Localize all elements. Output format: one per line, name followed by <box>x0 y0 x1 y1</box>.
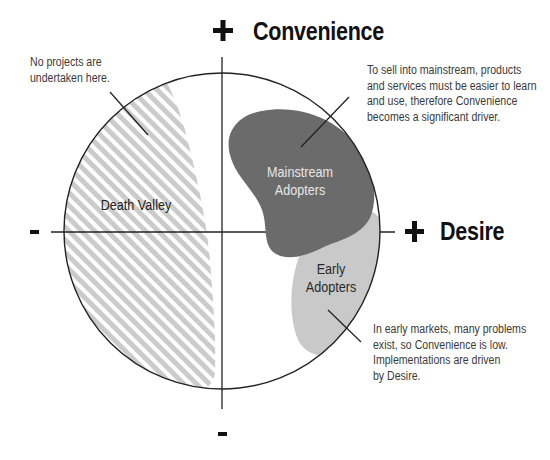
annotation-line: becomes a significant driver. <box>367 110 537 126</box>
annotation-line: and services must be easier to learn <box>367 79 537 95</box>
mainstream-label-line1: Mainstream <box>260 163 341 181</box>
mainstream-annotation: To sell into mainstream, products and se… <box>367 63 537 125</box>
annotation-line: To sell into mainstream, products <box>367 63 537 79</box>
annotation-line: undertaken here. <box>30 71 110 87</box>
annotation-line: and use, therefore Convenience <box>367 94 537 110</box>
death-valley-annotation: No projects are undertaken here. <box>30 55 110 86</box>
convenience-plus-icon <box>213 20 233 41</box>
desire-plus-icon <box>405 221 424 242</box>
desire-minus-icon <box>30 230 39 234</box>
early-annotation: In early markets, many problems exist, s… <box>373 322 526 384</box>
death-valley-region <box>40 60 215 391</box>
desire-axis-label: Desire <box>440 217 504 245</box>
diagram-canvas: Convenience Desire Death Valley Mainstre… <box>0 0 550 460</box>
annotation-line: exist, so Convenience is low. <box>373 338 526 354</box>
death-valley-label: Death Valley <box>96 196 175 214</box>
mainstream-label-line2: Adopters <box>260 181 341 199</box>
convenience-minus-icon <box>218 432 227 436</box>
convenience-axis-label: Convenience <box>253 17 384 45</box>
early-label-line2: Adopters <box>300 278 363 296</box>
annotation-line: Implementations are driven <box>373 353 526 369</box>
annotation-line: No projects are <box>30 55 110 71</box>
early-adopters-label: Early Adopters <box>300 260 363 296</box>
annotation-line: In early markets, many problems <box>373 322 526 338</box>
annotation-line: by Desire. <box>373 369 526 385</box>
early-label-line1: Early <box>300 260 363 278</box>
mainstream-adopters-label: Mainstream Adopters <box>260 163 341 199</box>
